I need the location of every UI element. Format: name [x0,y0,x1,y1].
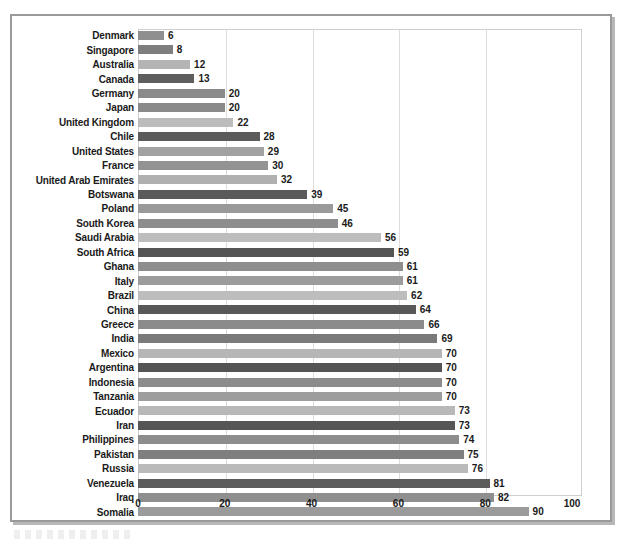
bar-track: 13 [138,72,582,86]
bar [138,291,407,300]
bar-value-label: 22 [237,116,248,129]
bar-row: Tanzania70 [12,390,610,404]
bar [138,349,442,358]
bar-value-label: 70 [446,376,457,389]
bar-track: 81 [138,477,582,491]
bar-track: 20 [138,101,582,115]
bar-value-label: 30 [272,159,283,172]
bar [138,320,424,329]
bar-row: United States29 [12,145,610,159]
bar-track: 8 [138,43,582,57]
x-tick-label-40: 40 [306,498,317,509]
bar [138,45,173,54]
bar-row: United Arab Emirates32 [12,173,610,187]
bar-row: India69 [12,332,610,346]
bar-track: 70 [138,361,582,375]
bar [138,190,307,199]
bar-value-label: 73 [459,419,470,432]
bar-row: Italy61 [12,274,610,288]
bar-category-label: China [12,306,134,316]
bar-track: 30 [138,159,582,173]
bar [138,421,455,430]
bar [138,479,490,488]
bar [138,406,455,415]
bar-category-label: India [12,334,134,344]
bar-track: 74 [138,433,582,447]
bar-value-label: 56 [385,231,396,244]
x-tick-label-0: 0 [135,498,141,509]
bar-track: 46 [138,217,582,231]
bar-category-label: Germany [12,89,134,99]
bar-row: Poland45 [12,202,610,216]
bar-category-label: Brazil [12,291,134,301]
bar-track: 76 [138,462,582,476]
bar-value-label: 12 [194,58,205,71]
bar-category-label: Greece [12,320,134,330]
bar-track: 56 [138,231,582,245]
bar [138,60,190,69]
bar [138,175,277,184]
bar-value-label: 61 [407,274,418,287]
bar-value-label: 81 [494,477,505,490]
bar-track: 69 [138,332,582,346]
x-tick-label-80: 80 [480,498,491,509]
bar-category-label: Somalia [12,508,134,518]
bar-category-label: Iran [12,421,134,431]
bar-track: 61 [138,274,582,288]
bar-category-label: Italy [12,277,134,287]
bar-rows-container: Denmark6Singapore8Australia12Canada13Ger… [12,29,610,520]
bar-value-label: 8 [177,43,183,56]
bar-track: 70 [138,376,582,390]
x-axis: 020406080100 [138,498,582,518]
bar-value-label: 66 [428,318,439,331]
bar-value-label: 70 [446,347,457,360]
bar [138,233,381,242]
bar-value-label: 62 [411,289,422,302]
bar-category-label: Chile [12,132,134,142]
bar-value-label: 20 [229,87,240,100]
bar-row: Canada13 [12,72,610,86]
bar-category-label: Iraq [12,493,134,503]
bar-track: 28 [138,130,582,144]
scan-artifact [14,530,134,539]
bar [138,363,442,372]
bar-row: Australia12 [12,58,610,72]
bar-value-label: 13 [198,72,209,85]
bar-value-label: 76 [472,462,483,475]
bar-track: 39 [138,188,582,202]
bar-track: 20 [138,87,582,101]
bar-track: 32 [138,173,582,187]
bar-category-label: Ghana [12,262,134,272]
bar-row: United Kingdom22 [12,116,610,130]
bar-row: Japan20 [12,101,610,115]
bar-category-label: United States [12,147,134,157]
bar-row: Saudi Arabia56 [12,231,610,245]
bar-category-label: Poland [12,204,134,214]
chart-figure-frame: Denmark6Singapore8Australia12Canada13Ger… [10,14,612,522]
bar-track: 59 [138,246,582,260]
bar [138,305,416,314]
bar [138,248,394,257]
bar-value-label: 20 [229,101,240,114]
bar-row: China64 [12,303,610,317]
bar-category-label: Botswana [12,190,134,200]
bar-row: Greece66 [12,318,610,332]
bar-value-label: 70 [446,361,457,374]
bar-category-label: Pakistan [12,450,134,460]
bar-value-label: 70 [446,390,457,403]
bar-track: 62 [138,289,582,303]
bar-row: Ecuador73 [12,404,610,418]
bar-value-label: 28 [264,130,275,143]
bar-track: 64 [138,303,582,317]
bar [138,204,333,213]
bar-row: Iran73 [12,419,610,433]
bar-row: Botswana39 [12,188,610,202]
bar [138,392,442,401]
bar-category-label: Australia [12,60,134,70]
bar-row: Pakistan75 [12,448,610,462]
bar-row: Mexico70 [12,347,610,361]
bar-category-label: Venezuela [12,479,134,489]
bar-track: 61 [138,260,582,274]
bar-category-label: Japan [12,103,134,113]
bar [138,161,268,170]
